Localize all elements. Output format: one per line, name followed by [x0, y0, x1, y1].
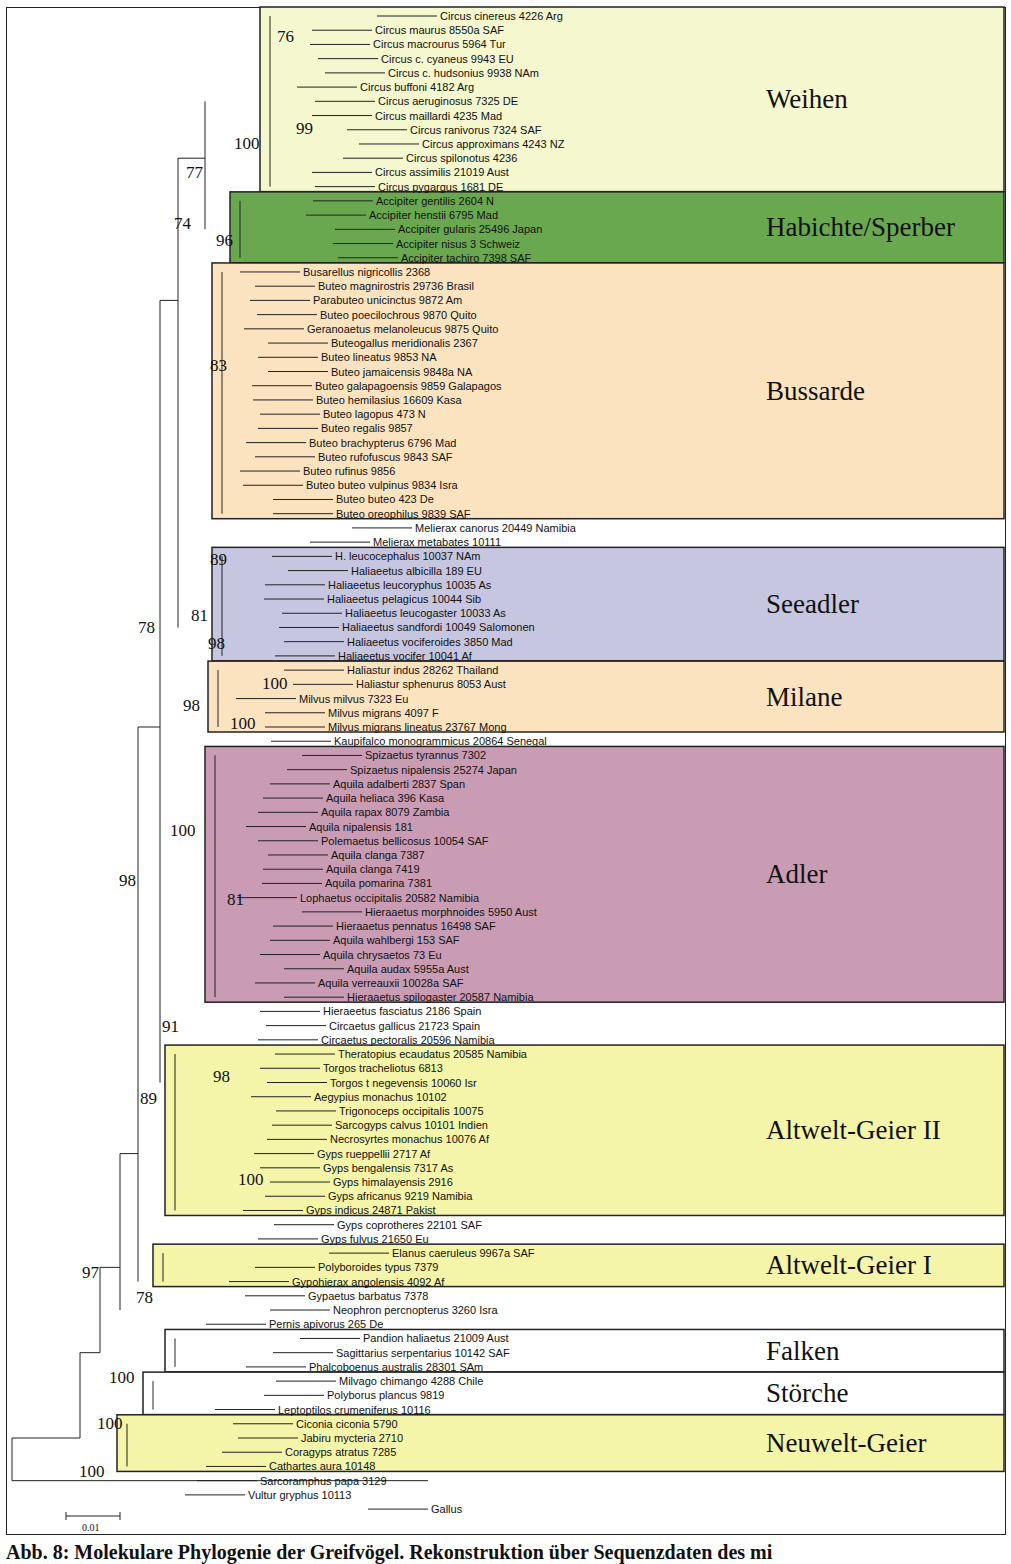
taxon-label: Cathartes aura 10148 — [269, 1460, 375, 1472]
taxon-label: Milvago chimango 4288 Chile — [339, 1375, 483, 1387]
bootstrap-value: 83 — [210, 356, 227, 375]
taxon-label: Gypohierax angolensis 4092 Af — [292, 1276, 445, 1288]
taxon-label: Buteo buteo vulpinus 9834 Isra — [306, 479, 459, 491]
taxon-label: Theratopius ecaudatus 20585 Namibia — [338, 1048, 528, 1060]
taxon-label: Jabiru mycteria 2710 — [301, 1432, 403, 1444]
group-label: Altwelt-Geier I — [766, 1250, 932, 1280]
taxon-label: Aquila wahlbergi 153 SAF — [333, 934, 460, 946]
taxon-label: Hieraaetus pennatus 16498 SAF — [336, 920, 496, 932]
taxon-label: Kaupifalco monogrammicus 20864 Senegal — [334, 735, 547, 747]
taxon-label: Pernis apivorus 265 De — [269, 1318, 383, 1330]
taxon-label: Circus c. hudsonius 9938 NAm — [388, 67, 539, 79]
phylogenetic-tree: Circus cinereus 4226 ArgCircus maurus 85… — [0, 0, 1011, 1540]
group-label: Altwelt-Geier II — [766, 1115, 941, 1145]
taxon-label: Circus approximans 4243 NZ — [422, 138, 565, 150]
bootstrap-value: 76 — [277, 27, 294, 46]
taxon-label: Haliastur sphenurus 8053 Aust — [356, 678, 506, 690]
bootstrap-value: 100 — [230, 714, 256, 733]
bootstrap-value: 78 — [138, 618, 155, 637]
bootstrap-value: 99 — [296, 119, 313, 138]
bootstrap-value: 77 — [186, 163, 204, 182]
bootstrap-value: 100 — [170, 821, 196, 840]
taxon-label: Buteo hemilasius 16609 Kasa — [316, 394, 462, 406]
taxon-label: Parabuteo unicinctus 9872 Am — [313, 294, 462, 306]
taxon-label: Haliaeetus vociferoides 3850 Mad — [347, 636, 513, 648]
taxon-label: Gallus — [431, 1503, 463, 1515]
bootstrap-value: 100 — [79, 1462, 105, 1481]
taxon-label: Buteo jamaicensis 9848a NA — [331, 366, 473, 378]
taxon-label: Buteo lineatus 9853 NA — [321, 351, 437, 363]
taxon-label: Aquila rapax 8079 Zambia — [321, 806, 450, 818]
taxon-label: Gyps coprotheres 22101 SAF — [337, 1219, 482, 1231]
taxon-label: H. leucocephalus 10037 NAm — [335, 550, 481, 562]
taxon-label: Circus macrourus 5964 Tur — [373, 38, 506, 50]
taxon-label: Milvus migrans lineatus 23767 Mong — [328, 721, 507, 733]
bootstrap-value: 98 — [213, 1067, 230, 1086]
taxon-label: Haliaeetus leucogaster 10033 As — [345, 607, 506, 619]
taxon-label: Phalcoboenus australis 28301 SAm — [309, 1361, 483, 1373]
taxon-label: Haliaeetus albicilla 189 EU — [351, 565, 482, 577]
bootstrap-value: 98 — [183, 696, 200, 715]
taxon-label: Accipiter henstii 6795 Mad — [369, 209, 498, 221]
taxon-label: Accipiter gentilis 2604 N — [376, 195, 494, 207]
taxon-label: Circus maillardi 4235 Mad — [375, 110, 502, 122]
taxon-label: Circus pygargus 1681 DE — [378, 181, 503, 193]
taxon-label: Haliaeetus pelagicus 10044 Sib — [327, 593, 481, 605]
taxon-label: Lophaetus occipitalis 20582 Namibia — [300, 892, 480, 904]
taxon-label: Haliaeetus sandfordi 10049 Salomonen — [342, 621, 535, 633]
taxon-label: Haliaeetus leucoryphus 10035 As — [328, 579, 492, 591]
taxon-label: Hieraaetus spilogaster 20587 Namibia — [347, 991, 534, 1003]
taxon-label: Gypaetus barbatus 7378 — [308, 1290, 428, 1302]
group-label: Bussarde — [766, 376, 865, 406]
taxon-label: Gyps bengalensis 7317 As — [323, 1162, 454, 1174]
taxon-label: Gyps himalayensis 2916 — [333, 1176, 453, 1188]
bootstrap-value: 100 — [109, 1368, 135, 1387]
taxon-label: Torgos tracheliotus 6813 — [323, 1062, 443, 1074]
clade-box — [260, 7, 1004, 192]
taxon-label: Aquila clanga 7419 — [326, 863, 420, 875]
taxon-label: Busarellus nigricollis 2368 — [303, 266, 430, 278]
taxon-label: Aquila chrysaetos 73 Eu — [323, 949, 442, 961]
taxon-label: Polyborus plancus 9819 — [327, 1389, 444, 1401]
bootstrap-value: 91 — [162, 1017, 179, 1036]
group-label: Habichte/Sperber — [766, 212, 955, 242]
taxon-label: Coragyps atratus 7285 — [285, 1446, 396, 1458]
taxon-label: Circaetus gallicus 21723 Spain — [329, 1020, 480, 1032]
taxon-label: Gyps rueppellii 2717 Af — [317, 1148, 431, 1160]
taxon-label: Milvus migrans 4097 F — [328, 707, 439, 719]
taxon-label: Buteo poecilochrous 9870 Quito — [320, 309, 477, 321]
taxon-label: Sarcogyps calvus 10101 Indien — [335, 1119, 488, 1131]
taxon-label: Polemaetus bellicosus 10054 SAF — [321, 835, 489, 847]
bootstrap-value: 98 — [119, 871, 136, 890]
clade-box — [205, 746, 1004, 1002]
taxon-label: Aquila verreauxii 10028a SAF — [318, 977, 464, 989]
taxon-label: Buteogallus meridionalis 2367 — [331, 337, 478, 349]
taxon-label: Circus cinereus 4226 Arg — [440, 10, 563, 22]
bootstrap-value: 100 — [234, 134, 260, 153]
taxon-label: Circus maurus 8550a SAF — [375, 24, 504, 36]
clade-box — [143, 1372, 1004, 1414]
scale-bar: 0.01 — [66, 1512, 120, 1533]
taxon-label: Circus aeruginosus 7325 DE — [378, 95, 518, 107]
taxon-label: Sagittarius serpentarius 10142 SAF — [336, 1347, 510, 1359]
bootstrap-value: 100 — [238, 1170, 264, 1189]
taxon-label: Aquila clanga 7387 — [331, 849, 425, 861]
taxon-label: Melierax metabates 10111 — [373, 536, 501, 548]
taxon-label: Aquila heliaca 396 Kasa — [326, 792, 445, 804]
taxon-label: Leptoptilos crumeniferus 10116 — [278, 1404, 431, 1416]
taxon-label: Buteo magnirostris 29736 Brasil — [318, 280, 474, 292]
taxon-label: Gyps fulvus 21650 Eu — [321, 1233, 429, 1245]
bootstrap-value: 89 — [140, 1089, 157, 1108]
scale-bar-label: 0.01 — [82, 1522, 100, 1533]
taxon-label: Necrosyrtes monachus 10076 Af — [330, 1133, 490, 1145]
taxon-label: Haliaeetus vocifer 10041 Af — [338, 650, 473, 662]
group-label: Neuwelt-Geier — [766, 1428, 926, 1458]
taxon-label: Spizaetus tyrannus 7302 — [365, 749, 486, 761]
taxon-label: Milvus milvus 7323 Eu — [299, 693, 408, 705]
bootstrap-value: 97 — [82, 1263, 100, 1282]
taxon-label: Aegypius monachus 10102 — [314, 1091, 447, 1103]
taxon-label: Geranoaetus melanoleucus 9875 Quito — [307, 323, 498, 335]
group-label: Falken — [766, 1336, 840, 1366]
taxon-label: Circus ranivorus 7324 SAF — [410, 124, 542, 136]
taxon-label: Circus assimilis 21019 Aust — [375, 166, 509, 178]
